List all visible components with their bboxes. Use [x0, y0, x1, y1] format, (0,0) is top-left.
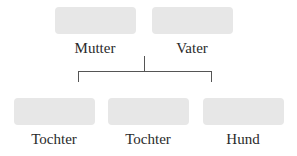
- connector-horizontal-line: [78, 71, 212, 72]
- connector-drop-left-line: [78, 71, 79, 82]
- child-node-box-hund: [203, 98, 284, 125]
- child-node-label-tochter-2: Tochter: [98, 131, 198, 147]
- child-node-label-tochter-1: Tochter: [4, 131, 104, 147]
- family-tree-diagram: Mutter Vater Tochter Tochter Hund: [0, 0, 297, 156]
- parent-node-label-vater: Vater: [142, 40, 242, 56]
- parent-node-box-mutter: [55, 7, 136, 34]
- connector-stem-line: [144, 56, 145, 71]
- child-node-label-hund: Hund: [193, 131, 293, 147]
- connector-drop-right-line: [211, 71, 212, 82]
- parent-node-label-mutter: Mutter: [45, 40, 145, 56]
- parent-node-box-vater: [152, 7, 233, 34]
- child-node-box-tochter-2: [108, 98, 189, 125]
- child-node-box-tochter-1: [14, 98, 95, 125]
